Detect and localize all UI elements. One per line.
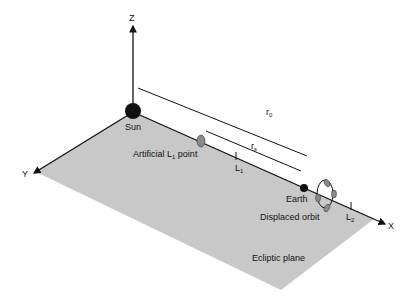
diagram-graphics: [0, 0, 416, 303]
l1-label: L1: [235, 164, 243, 174]
artificial-l1-sail-icon: [197, 135, 205, 147]
z-axis-label: Z: [129, 14, 135, 23]
orbit-sail-icon: [332, 190, 337, 198]
l2-subscript: 2: [351, 217, 354, 223]
rs-subscript: s: [254, 146, 257, 152]
ecliptic-plane-label: Ecliptic plane: [252, 254, 305, 263]
r0-subscript: 0: [269, 112, 272, 118]
orbit-sail-icon: [316, 194, 321, 202]
r0-label: r0: [266, 108, 272, 118]
sun-label: Sun: [125, 123, 141, 132]
rs-label: rs: [251, 142, 257, 152]
artificial-l1-suffix: point: [175, 149, 197, 159]
earth-label: Earth: [286, 195, 308, 204]
earth-icon: [300, 184, 308, 192]
l2-label: L2: [346, 213, 354, 223]
displaced-orbit-label: Displaced orbit: [260, 213, 320, 222]
sun-icon: [125, 103, 141, 119]
y-axis-label: Y: [22, 170, 28, 179]
artificial-l1-label: Artificial L1 point: [133, 150, 197, 160]
artificial-l1-text: Artificial L: [133, 149, 172, 159]
diagram-canvas: Z Y X Sun r0 rs Artificial L1 point L1 E…: [0, 0, 416, 303]
x-axis-label: X: [388, 222, 394, 231]
l1-subscript: 1: [240, 168, 243, 174]
